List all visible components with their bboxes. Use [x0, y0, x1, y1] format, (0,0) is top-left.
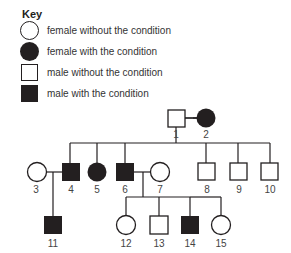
individual-10-male-unaffected [261, 163, 278, 180]
individual-14-male-affected [181, 216, 199, 234]
label-8: 8 [204, 184, 210, 195]
individual-6-male-affected [116, 163, 134, 181]
individual-8-male-unaffected [198, 163, 215, 180]
individual-4-male-affected [62, 163, 80, 181]
label-10: 10 [264, 184, 276, 195]
individual-11-male-affected [44, 216, 62, 234]
label-7: 7 [157, 184, 163, 195]
label-15: 15 [215, 238, 227, 249]
individual-13-male-unaffected [150, 216, 168, 234]
individual-12-female-unaffected [117, 216, 136, 235]
individual-5-female-affected [88, 163, 107, 182]
label-13: 13 [153, 238, 165, 249]
individual-2-female-affected [197, 109, 216, 128]
label-12: 12 [120, 238, 132, 249]
individual-15-female-unaffected [212, 216, 231, 235]
label-6: 6 [122, 184, 128, 195]
label-2: 2 [203, 129, 209, 140]
label-9: 9 [236, 184, 242, 195]
label-4: 4 [68, 184, 74, 195]
label-1: 1 [173, 129, 179, 140]
label-5: 5 [94, 184, 100, 195]
individual-1-male-unaffected [168, 110, 185, 127]
label-14: 14 [184, 238, 196, 249]
individual-7-female-unaffected [151, 163, 170, 182]
individual-9-male-unaffected [230, 163, 247, 180]
label-3: 3 [33, 184, 39, 195]
label-11: 11 [48, 238, 59, 249]
individual-3-female-unaffected [28, 163, 47, 182]
pedigree-chart: 1 2 3 4 5 6 7 8 9 10 11 12 13 14 15 [0, 0, 291, 253]
